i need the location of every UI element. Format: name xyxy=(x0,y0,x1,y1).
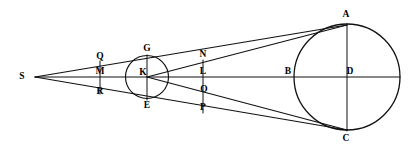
point-label-q: Q xyxy=(96,52,104,62)
point-label-d: D xyxy=(346,67,353,77)
point-label-s: S xyxy=(19,72,24,82)
figure-canvas xyxy=(0,0,418,159)
point-label-l: L xyxy=(200,67,207,77)
ray-k-to-a xyxy=(147,25,347,77)
point-label-c: C xyxy=(342,134,349,144)
point-label-r: R xyxy=(96,87,103,97)
point-label-b: B xyxy=(285,67,292,77)
point-label-p: P xyxy=(200,103,206,113)
point-label-o: O xyxy=(200,85,208,95)
point-label-g: G xyxy=(143,44,151,54)
ray-k-to-c xyxy=(147,77,347,130)
point-label-a: A xyxy=(342,10,349,20)
point-label-k: K xyxy=(139,68,147,78)
point-label-m: M xyxy=(95,67,104,77)
geometry-figure: S Q M R G K E N L O P A B D C xyxy=(0,0,418,159)
point-label-e: E xyxy=(144,101,151,111)
point-label-n: N xyxy=(199,50,206,60)
ray-s-to-c xyxy=(35,77,347,130)
